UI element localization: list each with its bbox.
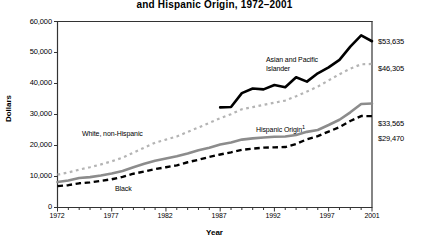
- x-axis-ticks: [58, 208, 373, 212]
- plot-area: [0, 0, 429, 242]
- series-line-hispanic-origin: [58, 103, 373, 182]
- chart-figure: and Hispanic Origin, 1972–2001 Dollars Y…: [0, 0, 429, 242]
- series-lines: [58, 35, 373, 186]
- series-line-white-non-hispanic: [58, 64, 373, 175]
